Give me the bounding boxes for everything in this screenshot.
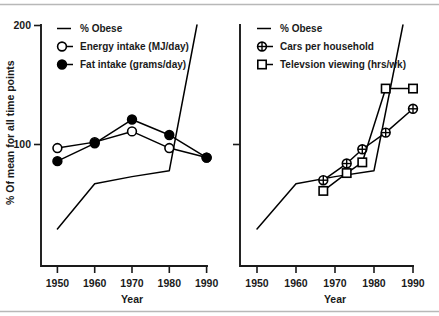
right-legend-item-tv: Televsion viewing (hrs/wk) — [258, 59, 406, 70]
data-point — [90, 139, 99, 148]
data-point — [382, 84, 390, 92]
right-legend: % Obese Cars per household Televsion vie… — [257, 23, 406, 70]
left-legend: % Obese Energy intake (MJ/day) Fat intak… — [57, 23, 189, 70]
series-line — [57, 25, 197, 229]
right-x-ticklabel-1980: 1980 — [362, 277, 386, 289]
right-x-ticklabel-1960: 1960 — [284, 277, 308, 289]
left-x-ticklabel-1960: 1960 — [83, 277, 107, 289]
data-point — [128, 115, 137, 124]
data-point — [128, 127, 137, 136]
data-point — [202, 153, 211, 162]
data-point — [381, 128, 390, 137]
left-y-ticks — [34, 26, 41, 145]
left-x-ticklabel-1970: 1970 — [120, 277, 144, 289]
data-point — [409, 104, 418, 113]
left-x-ticks — [57, 266, 206, 273]
left-x-ticklabel-1980: 1980 — [158, 277, 182, 289]
left-x-ticklabel-1990: 1990 — [195, 277, 219, 289]
open-square-icon — [258, 60, 266, 68]
right-x-ticklabel-1950: 1950 — [245, 277, 269, 289]
left-legend-label-0: % Obese — [80, 23, 123, 34]
data-point — [342, 159, 351, 168]
left-legend-item-fat: Fat intake (grams/day) — [58, 59, 187, 70]
right-legend-label-1: Cars per household — [280, 41, 374, 52]
data-point — [358, 158, 366, 166]
right-series-group — [257, 25, 417, 229]
series-line — [57, 120, 206, 162]
left-legend-label-2: Fat intake (grams/day) — [80, 59, 186, 70]
series-line — [257, 25, 403, 229]
left-legend-label-1: Energy intake (MJ/day) — [80, 41, 189, 52]
right-legend-item-cars: Cars per household — [258, 41, 374, 52]
filled-circle-icon — [58, 60, 67, 69]
left-legend-item-energy: Energy intake (MJ/day) — [58, 41, 189, 52]
right-x-ticklabel-1970: 1970 — [323, 277, 347, 289]
open-circle-icon — [58, 42, 67, 51]
left-x-ticklabel-1950: 1950 — [46, 277, 70, 289]
data-point — [319, 187, 327, 195]
data-point — [165, 144, 174, 153]
data-point — [343, 169, 351, 177]
data-point — [53, 157, 62, 166]
left-series-group — [53, 25, 211, 229]
right-x-ticks — [257, 266, 413, 273]
left-chart-panel: % Of mean for all time points 200 100 19… — [4, 19, 218, 305]
left-y-ticklabel-100: 100 — [13, 138, 31, 150]
left-legend-item-obese: % Obese — [57, 23, 123, 34]
right-x-ticklabel-1990: 1990 — [401, 277, 425, 289]
data-point — [53, 144, 62, 153]
data-point — [409, 84, 417, 92]
series-line — [323, 89, 413, 191]
right-legend-label-0: % Obese — [280, 23, 323, 34]
right-x-axis-title: Year — [324, 293, 346, 305]
left-x-axis-title: Year — [121, 293, 143, 305]
right-chart-panel: 1950 1960 1970 1980 1990 Year % Obese Ca… — [233, 23, 425, 305]
right-legend-item-obese: % Obese — [257, 23, 323, 34]
left-y-ticklabel-200: 200 — [13, 19, 31, 31]
left-y-axis-title: % Of mean for all time points — [4, 60, 16, 205]
right-legend-label-2: Televsion viewing (hrs/wk) — [280, 59, 406, 70]
data-point — [165, 131, 174, 140]
figure-root: % Of mean for all time points 200 100 19… — [0, 0, 439, 316]
data-point — [319, 176, 328, 185]
